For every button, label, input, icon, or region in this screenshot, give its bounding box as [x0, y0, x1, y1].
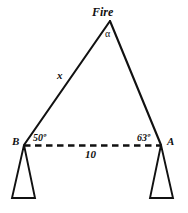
right-vertex-label-a: A [167, 136, 174, 147]
apex-label-fire: Fire [92, 6, 113, 18]
left-vertex-label-b: B [12, 136, 19, 147]
fire-triangulation-figure: Fire α x B 50º 63º A 10 [0, 0, 188, 213]
baseline-length-label: 10 [85, 149, 96, 160]
diagram-canvas [0, 0, 188, 213]
left-angle-label: 50º [33, 133, 46, 143]
left-side-label-x: x [57, 70, 63, 81]
right-angle-label: 63º [137, 133, 150, 143]
left-tower [12, 145, 35, 198]
triangle-left-leg [24, 21, 110, 145]
triangle-right-leg [110, 21, 161, 145]
right-tower [150, 145, 173, 198]
apex-angle-label-alpha: α [105, 29, 110, 39]
